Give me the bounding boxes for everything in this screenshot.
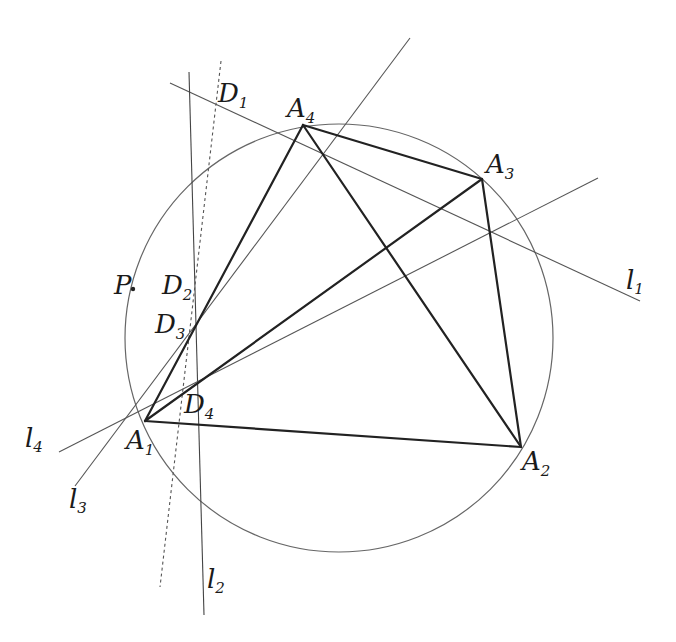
label-d3: D3 — [154, 309, 185, 343]
side-a2-a3 — [482, 179, 521, 447]
label-a1: A1 — [124, 425, 154, 459]
label-l2: l2 — [207, 564, 225, 597]
label-d1: D1 — [217, 78, 248, 112]
label-d4: D4 — [183, 389, 214, 423]
side-a1-a2 — [145, 421, 521, 447]
label-l4: l4 — [25, 423, 43, 456]
label-p: P — [113, 270, 132, 300]
label-d2: D2 — [161, 270, 192, 304]
label-a2: A2 — [520, 446, 550, 480]
geometry-diagram: A4 A3 A2 A1 D1 D2 D3 D4 P l1 l2 l3 l4 — [0, 0, 676, 642]
label-a4: A4 — [285, 93, 315, 127]
line-l2 — [189, 72, 204, 615]
side-a3-a4 — [303, 125, 482, 179]
line-l4 — [59, 178, 598, 452]
labels: A4 A3 A2 A1 D1 D2 D3 D4 P l1 l2 l3 l4 — [25, 78, 644, 597]
diagram-svg: A4 A3 A2 A1 D1 D2 D3 D4 P l1 l2 l3 l4 — [0, 0, 676, 642]
label-l3: l3 — [69, 484, 87, 517]
label-l1: l1 — [626, 265, 644, 298]
label-a3: A3 — [484, 149, 514, 183]
